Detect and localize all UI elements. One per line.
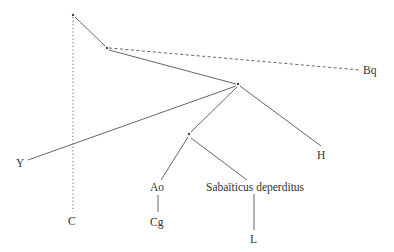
edge-n1-to-bq [109, 48, 360, 70]
edge-n3-to-ao [161, 137, 188, 180]
edge-root-to-n1 [75, 17, 105, 46]
node-n2 [237, 83, 239, 85]
label-cg: Cg [150, 216, 164, 229]
edge-n1-to-n2 [109, 50, 236, 84]
label-y: Y [16, 157, 25, 169]
label-ao: Ao [150, 181, 164, 193]
label-l: L [250, 233, 257, 245]
label-bq: Bq [363, 64, 377, 77]
edge-n2-to-h [240, 86, 321, 146]
edge-n3-to-sabaiticus [191, 138, 247, 180]
stemma-diagram: Bq Y H C Ao Cg Sabaïticus deperditus L [0, 0, 394, 252]
node-n3 [188, 133, 190, 135]
label-sabaiticus-deperditus: Sabaïticus deperditus [206, 181, 305, 194]
node-n1 [106, 47, 108, 49]
label-h: H [317, 149, 325, 161]
node-root [72, 14, 74, 16]
label-c: C [68, 215, 76, 227]
